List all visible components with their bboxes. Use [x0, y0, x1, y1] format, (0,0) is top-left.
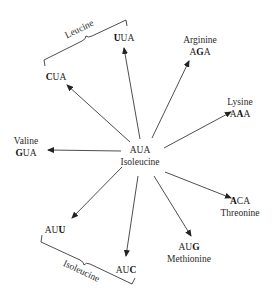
codon-cua: CUA — [46, 71, 67, 83]
arrow-to-aga — [152, 61, 189, 138]
center-amino-acid: Isoleucine — [120, 156, 159, 168]
arrow-to-uua — [124, 48, 140, 139]
arrow-to-aca — [165, 172, 231, 198]
codon-auu: AUU — [45, 224, 66, 236]
arrow-to-cua — [67, 85, 130, 142]
arrow-to-aug — [154, 176, 191, 236]
center-codon: AUA — [130, 144, 151, 156]
amino-valine: Valine — [14, 135, 38, 147]
amino-lysine: Lysine — [227, 96, 252, 108]
arrow-to-gua — [48, 150, 121, 151]
arrow-to-auu — [72, 167, 122, 218]
codon-aug: AUG — [178, 241, 199, 253]
amino-methionine: Methionine — [167, 253, 211, 265]
arrow-to-auc — [126, 176, 138, 256]
arrow-to-aaa — [164, 112, 231, 148]
codon-aga: AGA — [189, 46, 210, 58]
amino-threonine: Threonine — [220, 207, 259, 219]
codon-gua: GUA — [15, 147, 36, 159]
codon-auc: AUC — [116, 264, 137, 276]
amino-arginine: Arginine — [183, 34, 217, 46]
codon-aaa: AAA — [230, 108, 251, 120]
codon-aca: ACA — [230, 195, 250, 207]
codon-uua: UUA — [114, 32, 135, 44]
